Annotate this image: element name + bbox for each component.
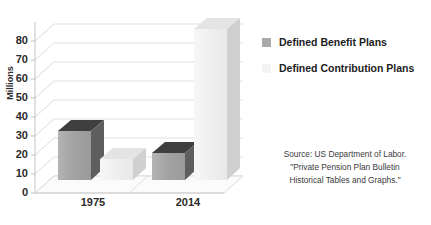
y-axis-ticks <box>31 41 35 193</box>
bar-2014-defined-benefit <box>152 142 198 180</box>
y-tick-0: 0 <box>8 186 28 198</box>
bar-2014-defined-contribution <box>194 18 240 180</box>
bar-1975-defined-benefit <box>58 120 104 180</box>
source-note: Source: US Department of Labor. "Private… <box>262 148 428 187</box>
y-tick-30: 30 <box>8 129 28 141</box>
depth-connectors <box>35 24 54 193</box>
source-line-3: Historical Tables and Graphs." <box>262 174 428 187</box>
y-tick-20: 20 <box>8 148 28 160</box>
legend-label-defined-contribution: Defined Contribution Plans <box>279 62 414 74</box>
chart-canvas <box>0 0 431 225</box>
legend-item-defined-contribution: Defined Contribution Plans <box>262 62 431 74</box>
y-tick-60: 60 <box>8 72 28 84</box>
y-tick-40: 40 <box>8 110 28 122</box>
legend-swatch-icon <box>262 38 271 47</box>
y-tick-50: 50 <box>8 91 28 103</box>
y-tick-70: 70 <box>8 53 28 65</box>
legend-item-defined-benefit: Defined Benefit Plans <box>262 36 431 48</box>
x-tick-1975: 1975 <box>63 196 123 208</box>
source-line-1: Source: US Department of Labor. <box>262 148 428 161</box>
bar-chart: Millions 80 70 60 50 40 30 20 10 0 1975 … <box>0 0 431 225</box>
chart-legend: Defined Benefit Plans Defined Contributi… <box>262 36 431 88</box>
legend-label-defined-benefit: Defined Benefit Plans <box>279 36 387 48</box>
y-tick-80: 80 <box>8 34 28 46</box>
y-tick-10: 10 <box>8 167 28 179</box>
source-line-2: "Private Pension Plan Bulletin <box>262 161 428 174</box>
x-tick-2014: 2014 <box>158 196 218 208</box>
legend-swatch-icon <box>262 64 271 73</box>
